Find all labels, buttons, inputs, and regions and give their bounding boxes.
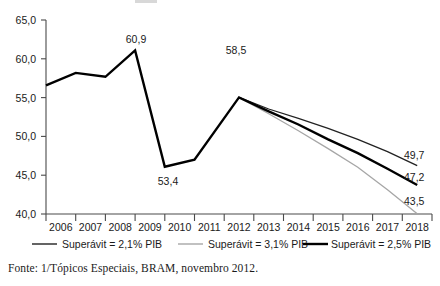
x-tick-label: 2010 bbox=[168, 221, 192, 233]
y-axis bbox=[41, 20, 46, 214]
chart-legend: Superávit = 2,1% PIB Superávit = 3,1% PI… bbox=[32, 238, 431, 250]
y-tick-label: 55,0 bbox=[16, 92, 37, 104]
point-label-2010: 53,4 bbox=[158, 175, 179, 187]
x-tick-label: 2015 bbox=[316, 221, 340, 233]
series-line-superavit-2-1 bbox=[239, 97, 417, 165]
data-series-group bbox=[46, 50, 417, 213]
y-tick-label: 60,0 bbox=[16, 53, 37, 65]
y-tick-label: 40,0 bbox=[16, 208, 37, 220]
legend-label-superavit-2-1: Superávit = 2,1% PIB bbox=[62, 238, 162, 250]
series-line-superavit-2-5 bbox=[46, 50, 417, 185]
end-label-47-2: 47,2 bbox=[404, 171, 425, 183]
point-label-2012: 58,5 bbox=[226, 44, 247, 56]
x-tick-label: 2007 bbox=[79, 221, 103, 233]
series-line-superavit-3-1 bbox=[239, 97, 417, 213]
point-label-2009: 60,9 bbox=[126, 33, 147, 45]
x-tick-label: 2013 bbox=[257, 221, 281, 233]
x-tick-label: 2012 bbox=[227, 221, 251, 233]
legend-label-superavit-3-1: Superávit = 3,1% PIB bbox=[208, 238, 308, 250]
chart-figure: 65,0 60,0 55,0 50,0 45,0 40,0 bbox=[0, 0, 440, 286]
x-axis-labels: 2006 2007 2008 2009 2010 2011 2012 2013 … bbox=[49, 221, 429, 233]
x-tick-label: 2008 bbox=[109, 221, 133, 233]
y-axis-labels: 65,0 60,0 55,0 50,0 45,0 40,0 bbox=[16, 14, 37, 220]
y-tick-label: 50,0 bbox=[16, 130, 37, 142]
end-label-49-7: 49,7 bbox=[404, 149, 425, 161]
end-label-43-5: 43,5 bbox=[404, 195, 425, 207]
x-tick-label: 2018 bbox=[406, 221, 430, 233]
x-tick-label: 2011 bbox=[198, 221, 221, 233]
x-axis bbox=[46, 214, 432, 221]
x-tick-label: 2014 bbox=[287, 221, 311, 233]
x-tick-label: 2016 bbox=[346, 221, 370, 233]
y-tick-label: 45,0 bbox=[16, 169, 37, 181]
x-tick-label: 2009 bbox=[138, 221, 162, 233]
line-chart: 65,0 60,0 55,0 50,0 45,0 40,0 bbox=[0, 0, 440, 258]
source-note: Fonte: 1/Tópicos Especiais, BRAM, novemb… bbox=[8, 262, 258, 274]
data-point-labels: 60,9 53,4 58,5 49,7 47,2 43,5 bbox=[126, 33, 425, 207]
legend-label-superavit-2-5: Superávit = 2,5% PIB bbox=[331, 238, 431, 250]
x-tick-label: 2006 bbox=[49, 221, 73, 233]
x-tick-label: 2017 bbox=[376, 221, 400, 233]
y-tick-label: 65,0 bbox=[16, 14, 37, 26]
